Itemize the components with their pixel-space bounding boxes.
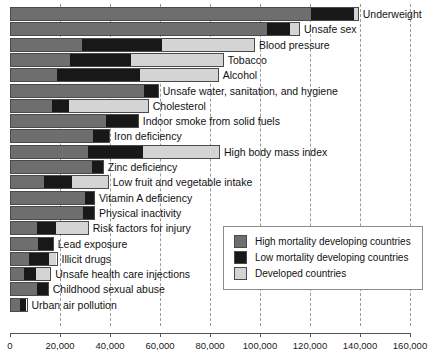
bar-segment <box>20 299 27 311</box>
bar-segment <box>354 8 358 20</box>
stacked-bar <box>10 114 139 128</box>
stacked-bar <box>10 68 219 82</box>
stacked-bar <box>10 298 28 312</box>
bar-category-label: Physical inactivity <box>99 206 181 220</box>
bar-segment <box>290 23 299 35</box>
stacked-bar <box>10 282 49 296</box>
legend-item[interactable]: Low mortality developing countries <box>234 250 414 265</box>
bar-segment <box>11 253 29 265</box>
bar-category-label: Alcohol <box>223 68 257 82</box>
legend-label: Developed countries <box>255 268 346 279</box>
bar-segment <box>11 268 24 280</box>
bar-segment <box>144 85 158 97</box>
x-axis-tick-label: 120,000 <box>293 340 327 351</box>
bar-segment <box>38 238 52 250</box>
stacked-bar <box>10 191 95 205</box>
bar-segment <box>85 192 94 204</box>
bar-category-label: Zinc deficiency <box>108 160 177 174</box>
bar-segment <box>162 39 254 51</box>
bar-row: High body mass index <box>0 145 435 159</box>
bar-segment <box>140 69 218 81</box>
bar-segment <box>11 85 144 97</box>
stacked-bar <box>10 38 255 52</box>
stacked-bar <box>10 160 104 174</box>
bar-segment <box>82 39 163 51</box>
bar-segment <box>11 39 82 51</box>
bar-segment <box>11 146 88 158</box>
stacked-bar <box>10 84 159 98</box>
bar-segment <box>72 176 108 188</box>
bar-category-label: Vitamin A deficiency <box>99 191 192 205</box>
bar-category-label: Low fruit and vegetable intake <box>113 175 253 189</box>
stacked-bar <box>10 53 224 67</box>
bar-category-label: Risk factors for injury <box>93 221 191 235</box>
legend-item[interactable]: High mortality developing countries <box>234 234 414 249</box>
bar-segment <box>143 146 219 158</box>
bar-category-label: High body mass index <box>224 145 327 159</box>
bar-category-label: Cholesterol <box>153 99 206 113</box>
bar-segment <box>11 100 52 112</box>
bar-segment <box>36 268 50 280</box>
legend-label: Low mortality developing countries <box>255 252 408 263</box>
bar-segment <box>88 146 144 158</box>
x-axis-line <box>10 333 411 334</box>
bar-category-label: Unsafe sex <box>304 22 357 36</box>
bar-row: Vitamin A deficiency <box>0 191 435 205</box>
bar-row: Urban air pollution <box>0 298 435 312</box>
legend-swatch-icon <box>234 267 247 280</box>
bar-row: Physical inactivity <box>0 206 435 220</box>
x-axis-tick-label: 60,000 <box>145 340 174 351</box>
bar-segment <box>11 299 20 311</box>
bar-segment <box>24 268 36 280</box>
bar-row: Low fruit and vegetable intake <box>0 175 435 189</box>
legend-label: High mortality developing countries <box>255 236 411 247</box>
bar-segment <box>11 161 92 173</box>
bar-row: Indoor smoke from solid fuels <box>0 114 435 128</box>
bar-segment <box>57 69 140 81</box>
bar-category-label: Lead exposure <box>58 237 127 251</box>
bar-category-label: Unsafe health care injections <box>55 267 190 281</box>
x-axis-tick-label: 40,000 <box>95 340 124 351</box>
legend-item[interactable]: Developed countries <box>234 266 414 281</box>
bar-segment <box>44 176 72 188</box>
bar-segment <box>131 54 223 66</box>
stacked-bar <box>10 267 51 281</box>
bar-category-label: Underweight <box>363 7 422 21</box>
stacked-bar <box>10 237 54 251</box>
x-axis-tick-label: 100,000 <box>243 340 277 351</box>
bar-segment <box>311 8 354 20</box>
chart-legend: High mortality developing countriesLow m… <box>223 226 423 290</box>
x-axis-tick-label: 80,000 <box>195 340 224 351</box>
bar-segment <box>93 130 109 142</box>
bar-segment <box>11 8 311 20</box>
bar-segment <box>52 100 69 112</box>
bar-category-label: Iron deficiency <box>114 129 182 143</box>
bar-segment <box>11 130 93 142</box>
bar-row: Blood pressure <box>0 38 435 52</box>
stacked-bar <box>10 221 89 235</box>
bar-segment <box>267 23 291 35</box>
bar-segment <box>11 23 267 35</box>
bar-segment <box>70 54 131 66</box>
bar-category-label: Illicit drugs <box>62 252 112 266</box>
bar-segment <box>11 222 37 234</box>
legend-swatch-icon <box>234 251 247 264</box>
bar-segment <box>83 207 94 219</box>
bar-segment <box>37 283 48 295</box>
x-axis-tick-label: 0 <box>7 340 12 351</box>
bar-segment <box>106 115 138 127</box>
stacked-bar <box>10 22 300 36</box>
bar-segment <box>11 283 37 295</box>
bar-segment <box>11 207 83 219</box>
bar-row: Unsafe sex <box>0 22 435 36</box>
x-axis-tick-label: 20,000 <box>45 340 74 351</box>
stacked-bar <box>10 206 95 220</box>
stacked-bar <box>10 252 58 266</box>
bar-category-label: Unsafe water, sanitation, and hygiene <box>163 84 338 98</box>
bar-segment <box>11 115 106 127</box>
bar-segment <box>11 238 38 250</box>
stacked-bar <box>10 129 110 143</box>
bar-segment <box>11 69 57 81</box>
bar-row: Iron deficiency <box>0 129 435 143</box>
bar-row: Alcohol <box>0 68 435 82</box>
